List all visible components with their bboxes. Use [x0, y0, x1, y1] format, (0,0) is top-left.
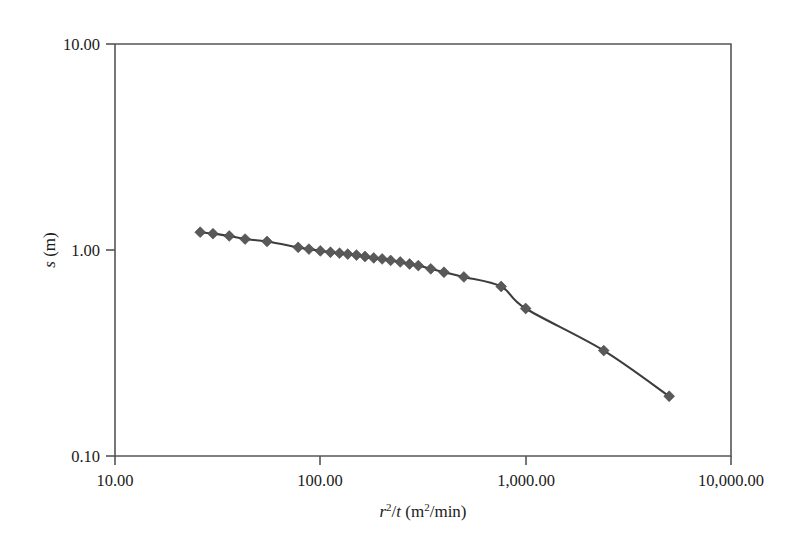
log-log-scatter-chart: 10.00 1.00 0.10 10.00 100.00 1,000.00 10… [0, 0, 810, 548]
series-line [200, 232, 669, 396]
data-point-marker [304, 244, 315, 255]
series-markers [195, 227, 675, 402]
y-axis-title-unit: (m) [40, 232, 59, 261]
x-axis-ticks [115, 456, 731, 465]
data-point-marker [404, 259, 415, 270]
plot-frame [115, 44, 731, 456]
data-point-marker [360, 251, 371, 262]
y-tick-label-2: 0.10 [71, 447, 100, 466]
data-point-marker [351, 250, 362, 261]
y-tick-label-1: 1.00 [71, 241, 100, 260]
data-point-marker [195, 227, 206, 238]
data-point-marker [293, 242, 304, 253]
data-point-marker [598, 345, 609, 356]
data-point-marker [224, 231, 235, 242]
data-point-marker [240, 234, 251, 245]
data-point-marker [458, 272, 469, 283]
y-axis-title: s (m) [40, 232, 59, 267]
x-axis-title-unit-close: /min) [430, 502, 467, 521]
y-tick-label-0: 10.00 [63, 35, 100, 54]
y-axis-tick-labels: 10.00 1.00 0.10 [63, 35, 100, 466]
x-tick-label-2: 1,000.00 [497, 471, 555, 490]
data-point-marker [315, 245, 326, 256]
data-point-marker [395, 257, 406, 268]
data-point-marker [413, 260, 424, 271]
chart-container: 10.00 1.00 0.10 10.00 100.00 1,000.00 10… [0, 0, 810, 548]
data-series-group [195, 227, 675, 402]
data-point-marker [377, 254, 388, 265]
x-tick-label-3: 10,000.00 [698, 471, 764, 490]
x-tick-label-0: 10.00 [96, 471, 133, 490]
x-axis-tick-labels: 10.00 100.00 1,000.00 10,000.00 [96, 471, 764, 490]
data-point-marker [208, 228, 219, 239]
data-point-marker [439, 267, 450, 278]
y-axis-ticks [106, 44, 115, 456]
data-point-marker [425, 263, 436, 274]
axis-box [115, 44, 731, 456]
x-axis-title: r2/t (m2/min) [379, 501, 466, 521]
data-point-marker [262, 236, 273, 247]
data-point-marker [342, 249, 353, 260]
data-point-marker [385, 255, 396, 266]
x-tick-label-1: 100.00 [297, 471, 342, 490]
data-point-marker [325, 247, 336, 258]
x-axis-title-unit-open: (m [401, 502, 424, 521]
